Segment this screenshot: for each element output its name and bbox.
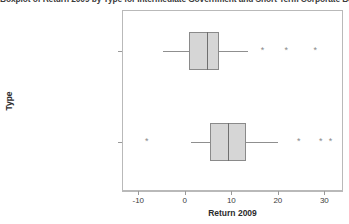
outlier-0-1: * bbox=[283, 46, 290, 55]
x-tick-2 bbox=[231, 191, 232, 195]
x-axis-line bbox=[122, 191, 343, 192]
x-axis-title: Return 2009 bbox=[122, 208, 343, 218]
y-tick-1 bbox=[118, 142, 122, 143]
outlier-1-3: * bbox=[327, 137, 334, 146]
box-0 bbox=[189, 32, 220, 70]
y-axis-title: Type bbox=[4, 71, 14, 131]
boxplot-figure: Boxplot of Return 2009 by Type for Inter… bbox=[0, 0, 349, 224]
x-tick-0 bbox=[138, 191, 139, 195]
whisker-high-1 bbox=[246, 142, 278, 143]
outlier-0-2: * bbox=[312, 46, 319, 55]
x-tick-3 bbox=[278, 191, 279, 195]
median-1 bbox=[228, 123, 229, 161]
plot-inner: ******* bbox=[123, 11, 342, 190]
whisker-low-0 bbox=[163, 51, 189, 52]
outlier-0-0: * bbox=[259, 46, 266, 55]
x-tick-label-3: 20 bbox=[258, 196, 298, 205]
x-tick-label-0: -10 bbox=[118, 196, 158, 205]
whisker-high-0 bbox=[219, 51, 248, 52]
plot-area: ******* bbox=[122, 10, 343, 191]
outlier-1-0: * bbox=[143, 137, 150, 146]
outlier-1-2: * bbox=[317, 137, 324, 146]
y-tick-0 bbox=[118, 51, 122, 52]
x-tick-1 bbox=[185, 191, 186, 195]
outlier-1-1: * bbox=[295, 137, 302, 146]
x-tick-label-4: 30 bbox=[304, 196, 344, 205]
whisker-low-1 bbox=[191, 142, 210, 143]
x-tick-4 bbox=[324, 191, 325, 195]
median-0 bbox=[207, 32, 208, 70]
chart-title: Boxplot of Return 2009 by Type for Inter… bbox=[0, 0, 349, 4]
x-tick-label-1: 0 bbox=[165, 196, 205, 205]
x-tick-label-2: 10 bbox=[211, 196, 251, 205]
